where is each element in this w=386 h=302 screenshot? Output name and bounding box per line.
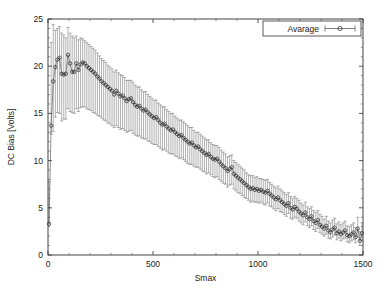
x-tick-label: 1000 [249, 259, 268, 269]
y-tick-label: 15 [34, 108, 44, 118]
data-markers-group [47, 53, 363, 242]
y-tick-label: 25 [34, 14, 44, 24]
x-tick-label: 1500 [354, 259, 373, 269]
error-bars-group [47, 25, 363, 246]
y-tick-label: 20 [34, 61, 44, 71]
x-axis-title: Smax [195, 273, 217, 283]
chart-canvas: 0500100015000510152025 Avarage SmaxDC Bi… [0, 0, 386, 302]
y-tick-label: 10 [34, 156, 44, 166]
y-tick-label: 5 [38, 203, 43, 213]
legend-group: Avarage [263, 21, 361, 36]
y-tick-label: 0 [38, 250, 43, 260]
x-tick-label: 0 [46, 259, 51, 269]
x-tick-label: 500 [146, 259, 160, 269]
y-axis-title: DC Bias [Volts] [6, 109, 16, 166]
data-line-group [49, 55, 362, 241]
chart-figure: 0500100015000510152025 Avarage SmaxDC Bi… [0, 0, 386, 302]
legend-label: Avarage [287, 24, 319, 34]
